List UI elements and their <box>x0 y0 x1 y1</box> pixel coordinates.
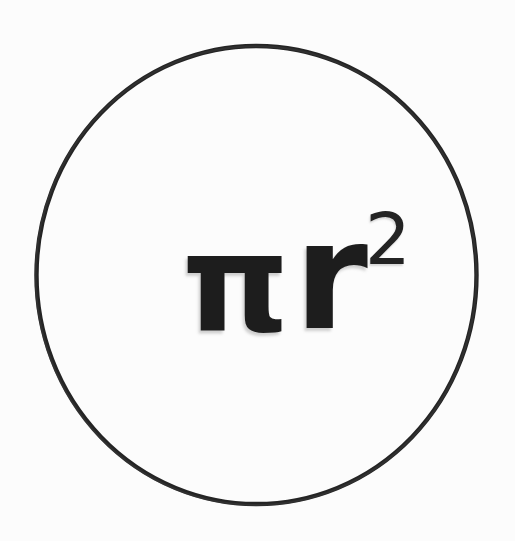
radius-variable: r <box>294 201 368 351</box>
figure-canvas: π r 2 <box>0 0 515 541</box>
exponent-two: 2 <box>365 203 411 275</box>
pi-symbol: π <box>182 215 288 351</box>
formula-expression: π r 2 <box>180 186 425 351</box>
